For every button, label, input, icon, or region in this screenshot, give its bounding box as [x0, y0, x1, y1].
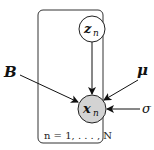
svg-text:n: n	[93, 108, 99, 118]
param-B: B	[3, 63, 17, 81]
plate-label: n = 1, . . . , N	[44, 130, 112, 141]
param-sigma: σ	[142, 101, 152, 116]
edge-mu-to-x	[104, 80, 138, 100]
svg-text:n: n	[93, 28, 99, 38]
svg-text:z: z	[83, 21, 92, 36]
svg-text:x: x	[82, 101, 91, 116]
node-x: x n	[78, 95, 106, 123]
param-mu: μ	[137, 61, 148, 79]
edge-B-to-x	[20, 75, 78, 102]
graphical-model-diagram: n = 1, . . . , N z n x n B μ σ	[0, 0, 154, 150]
node-z: z n	[79, 16, 105, 42]
